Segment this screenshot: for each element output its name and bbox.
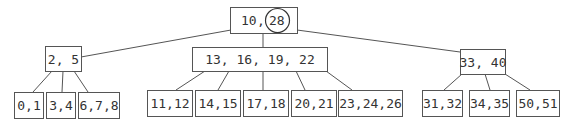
leaf-node-l7: 23,24,26 [339,91,403,117]
root-key-1: 10 [241,13,257,28]
edge-n-right-to-l8 [444,74,462,90]
edge-n-mid-to-l3 [176,71,205,90]
leaf-node-label: 17,18 [246,96,285,111]
leaf-node-label: 31,32 [423,96,462,111]
internal-node-n-left: 2, 5 [46,47,82,72]
edge-n-left-to-l2 [74,71,88,92]
edge-n-right-to-l9 [485,74,490,90]
leaf-node-label: 14,15 [198,96,237,111]
edge-n-right-to-l10 [505,74,530,90]
edge-n-mid-to-l7 [326,71,352,90]
leaf-node-l2: 6,7,8 [79,93,120,119]
root-key-2-highlighted: 28 [269,13,285,28]
leaf-node-label: 34,35 [470,96,509,111]
root-key-separator: , [257,13,265,28]
internal-node-label: 33, 40 [460,55,507,70]
internal-node-label: 2, 5 [48,52,79,67]
leaf-node-l10: 50,51 [517,91,560,117]
root-node: 10 , 28 [231,8,298,34]
leaf-node-l4: 14,15 [196,91,241,117]
leaf-node-l5: 17,18 [244,91,289,117]
leaf-node-label: 3,4 [49,98,73,113]
edge-n-left-to-l0 [33,71,52,92]
b-tree-diagram: 10 , 28 2, 513, 16, 19, 2233, 400,13,46,… [0,0,564,125]
leaf-node-l8: 31,32 [423,91,463,117]
leaf-node-label: 0,1 [17,98,40,113]
leaf-node-l6: 20,21 [292,91,337,117]
leaf-node-label: 6,7,8 [79,98,118,113]
leaf-node-label: 20,21 [294,96,333,111]
edge-n-mid-to-l6 [296,71,305,90]
leaf-node-l0: 0,1 [15,93,44,119]
leaf-node-l9: 34,35 [470,91,510,117]
leaf-node-l3: 11,12 [148,91,193,117]
edge-n-mid-to-l4 [218,71,229,90]
leaf-node-l1: 3,4 [47,93,76,119]
internal-node-n-right: 33, 40 [460,50,507,75]
internal-node-label: 13, 16, 19, 22 [205,52,315,67]
nodes: 10 , 28 2, 513, 16, 19, 2233, 400,13,46,… [15,8,560,119]
leaf-node-label: 11,12 [150,96,189,111]
leaf-node-label: 23,24,26 [339,96,402,111]
internal-node-n-mid: 13, 16, 19, 22 [193,48,328,72]
edge-n-left-to-l1 [62,71,63,92]
leaf-node-label: 50,51 [518,96,557,111]
